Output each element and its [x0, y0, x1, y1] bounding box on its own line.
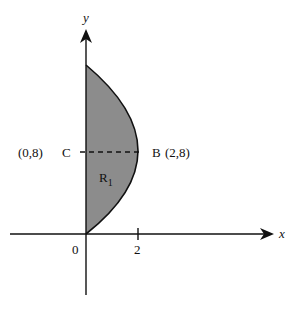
y-axis-label: y [81, 10, 89, 25]
origin-label: 0 [72, 242, 79, 257]
region-subscript: 1 [108, 177, 113, 188]
point-b-label: B [152, 145, 161, 160]
x-axis-label: x [278, 226, 285, 241]
point-b-coords: (2,8) [165, 145, 190, 160]
point-c-label: C [62, 145, 71, 160]
x-tick-label: 2 [134, 242, 141, 257]
diagram-canvas: y x 2 0 (0,8) C B (2,8) R1 [0, 0, 293, 310]
point-c-coords: (0,8) [18, 145, 43, 160]
